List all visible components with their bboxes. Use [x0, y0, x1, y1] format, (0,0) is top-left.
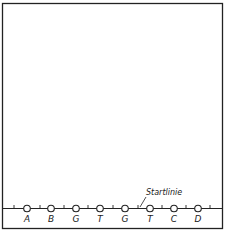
lane-label: A [23, 214, 30, 224]
sample-spot [24, 205, 31, 212]
lane-label: B [48, 214, 54, 224]
sample-spot [122, 205, 129, 212]
start-line-leader [140, 197, 146, 207]
start-line-label: Startlinie [146, 188, 182, 197]
sample-spot [147, 205, 154, 212]
lane-label: G [73, 214, 80, 224]
lane-label: T [147, 214, 154, 224]
plate-frame [3, 4, 223, 229]
lane-label: D [195, 214, 202, 224]
lane-label: G [122, 214, 129, 224]
chromatography-plate-diagram: ABGTGTCD Startlinie [0, 0, 227, 241]
lane-label: T [97, 214, 104, 224]
sample-spot [171, 205, 178, 212]
sample-spot [73, 205, 80, 212]
sample-spot [97, 205, 104, 212]
lane-label: C [171, 214, 178, 224]
sample-spot [195, 205, 202, 212]
sample-spot [48, 205, 55, 212]
